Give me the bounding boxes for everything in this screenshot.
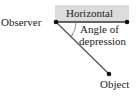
horizontal-end-dot: [125, 20, 130, 25]
angle-label-line2: depression: [79, 35, 127, 47]
angle-of-depression-diagram: Observer Horizontal Angle of depression …: [0, 0, 138, 97]
observer-label: Observer: [1, 16, 42, 28]
observer-dot: [54, 20, 59, 25]
angle-arc: [71, 22, 76, 37]
angle-arrow-icon: [69, 34, 73, 37]
object-dot: [107, 72, 112, 77]
object-label: Object: [100, 78, 129, 90]
horizontal-label: Horizontal: [66, 7, 113, 19]
angle-label-line1: Angle of: [80, 23, 119, 35]
